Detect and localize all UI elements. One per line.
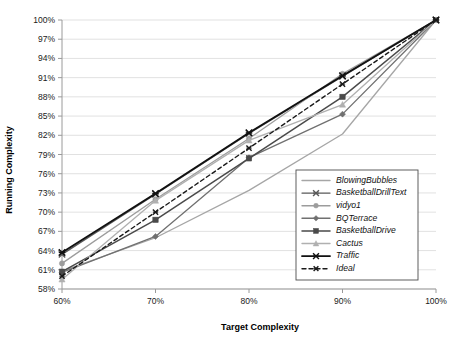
x-tick-label: 100% (425, 296, 447, 306)
y-tick-label: 88% (38, 92, 55, 102)
line-chart: 58%61%64%67%70%73%76%79%82%85%88%91%94%9… (0, 0, 458, 337)
circle-marker (59, 261, 64, 266)
legend-label: BasketballDrillText (336, 187, 407, 197)
x-tick-label: 60% (53, 296, 70, 306)
cross-marker (153, 210, 158, 215)
y-tick-label: 85% (38, 111, 55, 121)
y-tick-label: 67% (38, 226, 55, 236)
y-tick-label: 100% (33, 15, 55, 25)
square-marker (340, 94, 345, 99)
legend-label: BlowingBubbles (336, 175, 398, 185)
y-tick-label: 73% (38, 188, 55, 198)
y-tick-label: 61% (38, 265, 55, 275)
legend-label: BasketballDrive (336, 225, 396, 235)
y-axis-tick-labels: 58%61%64%67%70%73%76%79%82%85%88%91%94%9… (33, 15, 55, 294)
y-tick-label: 91% (38, 73, 55, 83)
legend-label: BQTerrace (336, 213, 377, 223)
y-tick-label: 79% (38, 150, 55, 160)
cross-marker (152, 190, 158, 196)
x-axis-title: Target Complexity (221, 322, 299, 332)
cross-marker (340, 81, 345, 86)
y-tick-label: 76% (38, 169, 55, 179)
legend-label: Ideal (336, 263, 356, 273)
x-tick-label: 90% (334, 296, 351, 306)
legend-label: Traffic (336, 250, 360, 260)
x-tick-label: 80% (240, 296, 257, 306)
y-tick-label: 82% (38, 130, 55, 140)
legend-label: vidyo1 (336, 200, 361, 210)
y-tick-label: 58% (38, 284, 55, 294)
legend-label: Cactus (336, 238, 363, 248)
square-marker (153, 217, 158, 222)
y-axis-title: Running Complexity (4, 126, 14, 214)
square-marker (314, 228, 319, 233)
y-tick-label: 97% (38, 34, 55, 44)
y-tick-label: 64% (38, 246, 55, 256)
chart-legend: BlowingBubblesBasketballDrillTextvidyo1B… (296, 170, 418, 280)
x-tick-label: 70% (147, 296, 164, 306)
y-tick-label: 70% (38, 207, 55, 217)
cross-marker (246, 145, 251, 150)
chart-container: 58%61%64%67%70%73%76%79%82%85%88%91%94%9… (0, 0, 458, 337)
circle-marker (314, 203, 319, 208)
x-axis-tick-labels: 60%70%80%90%100% (53, 296, 447, 306)
square-marker (246, 156, 251, 161)
y-tick-label: 94% (38, 53, 55, 63)
